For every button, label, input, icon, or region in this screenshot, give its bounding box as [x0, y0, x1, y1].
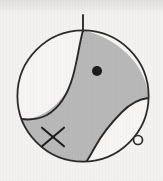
beachball-diagram: [0, 0, 163, 181]
rim-open-circle-icon: [134, 136, 143, 145]
p-axis-dot-icon: [92, 66, 102, 76]
focal-mechanism-figure: Earthquake focal mechanism beachball Low…: [0, 0, 163, 181]
